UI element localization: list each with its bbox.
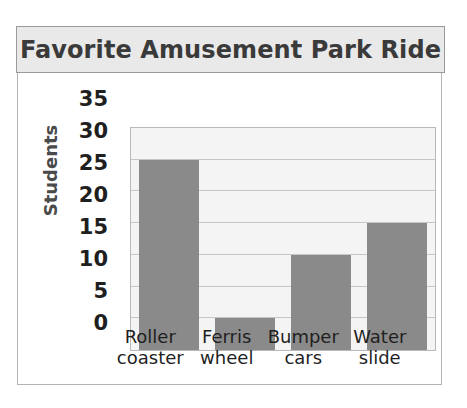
x-axis-tick: Bumpercars: [267, 327, 339, 368]
x-axis-tick-line2: cars: [267, 348, 339, 369]
x-axis-tick-line2: slide: [344, 348, 416, 369]
y-axis-tick: 5: [93, 281, 108, 302]
x-axis-tick: Ferriswheel: [191, 327, 263, 368]
y-axis-tick-labels: 35302520151050: [60, 99, 108, 323]
x-axis-tick: Rollercoaster: [114, 327, 186, 368]
page-title: Favorite Amusement Park Ride: [20, 36, 441, 64]
y-axis-tick: 20: [79, 185, 108, 206]
y-axis-tick: 35: [79, 89, 108, 110]
chart-title-banner: Favorite Amusement Park Ride: [16, 26, 445, 73]
x-axis-tick-line2: wheel: [191, 348, 263, 369]
bar-series: [131, 128, 435, 350]
y-axis-tick: 15: [79, 217, 108, 238]
y-axis-tick: 0: [93, 313, 108, 334]
y-axis-tick: 30: [79, 121, 108, 142]
x-axis-tick-labels: RollercoasterFerriswheelBumpercarsWaters…: [112, 327, 418, 368]
y-axis-tick: 10: [79, 249, 108, 270]
bar: [139, 160, 199, 350]
x-axis-tick-line1: Ferris: [202, 326, 251, 347]
y-axis-tick: 25: [79, 153, 108, 174]
x-axis-tick-line1: Bumper: [268, 326, 339, 347]
x-axis-tick-line1: Roller: [125, 326, 176, 347]
x-axis-tick-line1: Water: [353, 326, 406, 347]
y-axis-title: Students: [40, 116, 61, 226]
plot-area: [130, 127, 436, 351]
x-axis-tick: Waterslide: [344, 327, 416, 368]
x-axis-tick-line2: coaster: [114, 348, 186, 369]
